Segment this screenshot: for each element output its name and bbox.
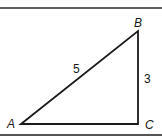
- triangle-figure: A B C 5 3: [0, 0, 162, 138]
- triangle-abc: [21, 31, 138, 124]
- vertex-c-label: C: [145, 118, 154, 132]
- vertex-a-label: A: [6, 117, 15, 131]
- side-bc-label: 3: [144, 72, 151, 86]
- vertex-b-label: B: [134, 16, 142, 30]
- side-ab-label: 5: [73, 62, 80, 76]
- triangle-diagram: A B C 5 3: [0, 0, 162, 138]
